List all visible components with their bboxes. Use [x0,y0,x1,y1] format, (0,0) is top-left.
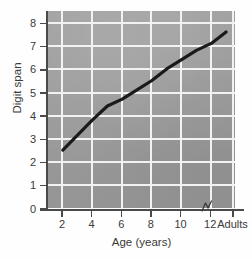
x-tick-label-12: 12 [204,219,216,230]
x-tick-label-2: 2 [59,219,65,230]
y-tick-6 [40,69,47,71]
chart-figure: 0 1 2 3 4 5 6 7 8 2 4 6 8 10 12 Adults D… [0,0,252,260]
y-tick-4 [40,115,47,117]
y-tick-0 [40,208,47,210]
x-tick-10 [180,210,182,217]
x-tick-label-adults: Adults [217,219,248,230]
x-tick-label-10: 10 [174,219,186,230]
y-axis-title: Digit span [11,33,23,143]
y-axis-line [46,11,48,210]
digit-span-series [48,11,235,208]
x-tick-2 [61,210,63,217]
y-tick-1 [40,185,47,187]
x-tick-label-6: 6 [118,219,124,230]
x-tick-label-4: 4 [89,219,95,230]
y-tick-label-1: 1 [16,180,36,191]
x-tick-4 [91,210,93,217]
x-tick-adults [232,210,234,217]
axis-break-icon [199,200,215,212]
y-tick-label-8: 8 [16,18,36,29]
x-tick-label-8: 8 [148,219,154,230]
y-tick-5 [40,92,47,94]
y-tick-7 [40,46,47,48]
y-tick-label-2: 2 [16,157,36,168]
x-axis-title: Age (years) [48,236,235,248]
y-tick-8 [40,23,47,25]
y-tick-2 [40,162,47,164]
plot-area [48,11,235,208]
y-tick-3 [40,139,47,141]
x-tick-6 [121,210,123,217]
x-tick-8 [150,210,152,217]
y-tick-label-0: 0 [16,204,36,215]
